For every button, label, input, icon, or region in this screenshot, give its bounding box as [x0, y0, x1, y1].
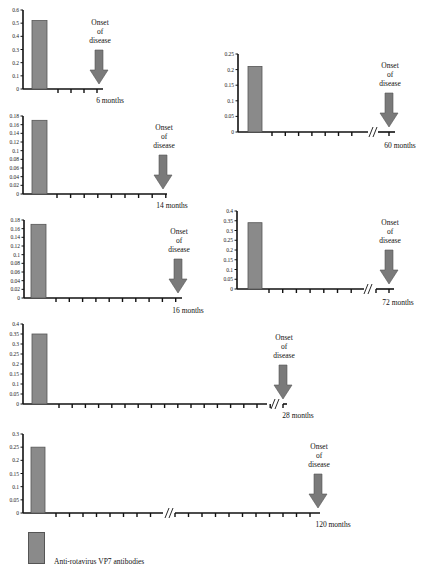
onset-label: disease	[168, 245, 190, 254]
y-tick-label: 0.05	[224, 113, 234, 119]
y-tick-label: 0.2	[12, 60, 19, 66]
y-tick-label: 0.06	[10, 269, 20, 275]
y-tick-label: 0.08	[9, 156, 19, 162]
onset-label: of	[161, 132, 168, 141]
axis-break-mark	[165, 508, 169, 518]
onset-label: disease	[379, 79, 401, 88]
y-tick-label: 0.15	[224, 82, 234, 88]
y-tick-label: 0.05	[223, 276, 233, 282]
y-tick-label: 0	[230, 286, 233, 292]
y-tick-label: 0.1	[12, 73, 19, 79]
timepoint-label: 14 months	[156, 201, 188, 210]
y-tick-label: 0.1	[12, 484, 19, 490]
y-tick-label: 0.25	[223, 237, 233, 243]
y-tick-label: 0.12	[9, 139, 19, 145]
chart-panel-120-months: 00.050.10.150.20.250.3Onsetofdisease120 …	[9, 431, 350, 529]
y-tick-label: 0.1	[226, 267, 233, 273]
y-tick-label: 0	[17, 295, 20, 301]
onset-label: Onset	[170, 227, 188, 236]
timepoint-label: 60 months	[384, 141, 416, 150]
y-tick-label: 0.1	[12, 381, 19, 387]
y-tick-label: 0.18	[9, 113, 19, 119]
y-tick-label: 0.15	[9, 371, 19, 377]
onset-label: disease	[153, 141, 175, 150]
y-tick-label: 0	[16, 510, 19, 516]
axis-break-mark	[275, 399, 279, 409]
chart-panel-60-months: 00.050.10.150.20.25Onsetofdisease60 mont…	[224, 51, 415, 150]
onset-arrow-icon	[154, 155, 172, 189]
axis-break-mark	[271, 399, 275, 409]
axis-break-mark	[368, 284, 372, 294]
onset-label: of	[281, 342, 288, 351]
y-tick-label: 0.05	[9, 391, 19, 397]
y-tick-label: 0.05	[9, 497, 19, 503]
y-tick-label: 0.35	[9, 331, 19, 337]
bar-antibody-level	[32, 21, 47, 89]
y-tick-label: 0.2	[226, 247, 233, 253]
y-tick-label: 0.18	[10, 217, 20, 223]
legend-swatch-icon	[28, 532, 45, 564]
y-tick-label: 0.16	[10, 226, 20, 232]
y-tick-label: 0	[16, 191, 19, 197]
y-tick-label: 0.04	[10, 278, 20, 284]
chart-panel-16-months: 00.020.040.060.080.10.120.140.160.18Onse…	[10, 217, 203, 315]
onset-label: of	[176, 236, 183, 245]
figure-canvas: 00.10.20.30.40.50.6Onsetofdisease6 month…	[0, 0, 425, 571]
y-tick-label: 0.3	[12, 47, 19, 53]
y-tick-label: 0.2	[12, 457, 19, 463]
bar-antibody-level	[32, 334, 47, 404]
y-tick-label: 0.3	[226, 228, 233, 234]
chart-panel-28-months: 00.050.10.150.20.250.30.350.4Onsetofdise…	[9, 321, 313, 420]
timepoint-label: 120 months	[315, 520, 350, 529]
timepoint-label: 28 months	[282, 411, 314, 420]
y-tick-label: 0.4	[12, 33, 19, 39]
onset-label: of	[97, 27, 104, 36]
y-tick-label: 0	[16, 401, 19, 407]
onset-label: Onset	[381, 61, 399, 70]
y-tick-label: 0.02	[10, 286, 20, 292]
y-tick-label: 0.1	[13, 252, 20, 258]
onset-label: disease	[379, 236, 401, 245]
y-tick-label: 0.16	[9, 122, 19, 128]
y-tick-label: 0.15	[223, 257, 233, 263]
y-tick-label: 0.35	[223, 218, 233, 224]
chart-panel-6-months: 00.10.20.30.40.50.6Onsetofdisease6 month…	[12, 7, 124, 105]
axis-break-mark	[373, 127, 377, 137]
y-tick-label: 0.15	[9, 471, 19, 477]
y-tick-label: 0.5	[12, 20, 19, 26]
y-tick-label: 0.3	[12, 431, 19, 437]
onset-label: of	[387, 227, 394, 236]
axis-break-mark	[364, 284, 368, 294]
y-tick-label: 0	[16, 86, 19, 92]
y-tick-label: 0.06	[9, 165, 19, 171]
bar-antibody-level	[31, 447, 45, 513]
y-tick-label: 0.25	[224, 51, 234, 57]
y-tick-label: 0.25	[9, 351, 19, 357]
timepoint-label: 72 months	[382, 298, 414, 307]
onset-label: Onset	[381, 218, 399, 227]
y-tick-label: 0.2	[12, 361, 19, 367]
onset-label: Onset	[155, 123, 173, 132]
y-tick-label: 0.4	[12, 321, 19, 327]
onset-label: disease	[89, 36, 111, 45]
onset-label: of	[316, 451, 323, 460]
onset-arrow-icon	[380, 93, 398, 127]
onset-arrow-icon	[380, 250, 398, 284]
y-tick-label: 0.6	[12, 7, 19, 13]
y-tick-label: 0.1	[227, 98, 234, 104]
onset-arrow-icon	[169, 259, 187, 293]
y-tick-label: 0.02	[9, 182, 19, 188]
chart-panel-14-months: 00.020.040.060.080.10.120.140.160.18Onse…	[9, 113, 187, 210]
onset-label: Onset	[310, 442, 328, 451]
bar-antibody-level	[32, 120, 47, 194]
y-tick-label: 0.08	[10, 260, 20, 266]
y-tick-label: 0.1	[12, 148, 19, 154]
y-tick-label: 0.3	[12, 341, 19, 347]
onset-arrow-icon	[90, 50, 108, 84]
onset-arrow-icon	[274, 365, 292, 399]
y-tick-label: 0.14	[10, 234, 20, 240]
onset-label: Onset	[275, 333, 293, 342]
onset-label: of	[387, 70, 394, 79]
onset-label: Onset	[91, 18, 109, 27]
y-tick-label: 0.25	[9, 444, 19, 450]
